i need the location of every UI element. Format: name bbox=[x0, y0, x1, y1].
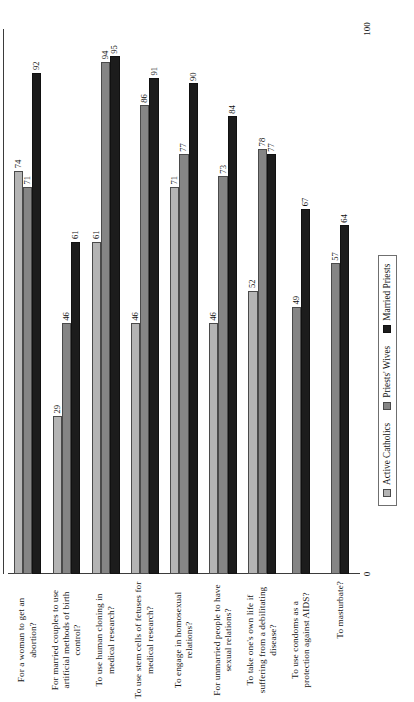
grouped-bar-chart: For a woman to get an abortion?For marri… bbox=[0, 0, 414, 702]
bar-group: 294661 bbox=[47, 29, 86, 574]
bar[interactable] bbox=[71, 242, 80, 574]
category-label: For a woman to get an abortion? bbox=[16, 581, 39, 699]
bar[interactable] bbox=[14, 171, 23, 574]
bar[interactable] bbox=[292, 307, 301, 574]
axis-tick-min: 0 bbox=[362, 572, 372, 577]
bar-row: 71 bbox=[170, 29, 179, 574]
bar[interactable] bbox=[179, 154, 188, 574]
legend-label: Active Catholics bbox=[382, 423, 392, 485]
bar-row: 95 bbox=[110, 29, 119, 574]
category-label-cell: To masturbate? bbox=[321, 574, 360, 702]
bar-value-label: 57 bbox=[331, 252, 340, 261]
bar-group: 4967 bbox=[282, 29, 321, 574]
chart-legend: Active CatholicsPriests' WivesMarried Pr… bbox=[378, 255, 397, 506]
bar-value-label: 77 bbox=[179, 143, 188, 152]
legend-item[interactable]: Married Priests bbox=[382, 264, 392, 333]
bar-row: 90 bbox=[189, 29, 198, 574]
bar-group: 717790 bbox=[164, 29, 203, 574]
bar-value-label: 90 bbox=[189, 72, 198, 81]
category-label-cell: For a woman to get an abortion? bbox=[8, 574, 47, 702]
bar-value-label: 71 bbox=[170, 176, 179, 185]
bar[interactable] bbox=[218, 176, 227, 574]
bar[interactable] bbox=[23, 187, 32, 574]
bar-row: 77 bbox=[179, 29, 188, 574]
bar-group: 5764 bbox=[321, 29, 360, 574]
bar-row: 71 bbox=[23, 29, 32, 574]
bar-group: 467384 bbox=[203, 29, 242, 574]
bar[interactable] bbox=[140, 105, 149, 574]
bar-value-label: 46 bbox=[131, 312, 140, 321]
legend-item[interactable]: Priests' Wives bbox=[382, 346, 392, 410]
bar-value-label: 77 bbox=[267, 143, 276, 152]
bar[interactable] bbox=[258, 149, 267, 574]
bar[interactable] bbox=[228, 116, 237, 574]
category-label: For married couples to use artificial me… bbox=[50, 581, 84, 699]
bar-value-label: 71 bbox=[23, 176, 32, 185]
bar[interactable] bbox=[62, 323, 71, 574]
category-label-cell: To take one's own life if suffering from… bbox=[243, 574, 282, 702]
bar[interactable] bbox=[110, 56, 119, 574]
scale-top-rule bbox=[3, 29, 4, 574]
bar-value-label: 92 bbox=[32, 62, 41, 71]
bar-row: 57 bbox=[331, 29, 340, 574]
category-label-cell: To use stem cells of fetuses for medical… bbox=[125, 574, 164, 702]
bar-value-label: 46 bbox=[62, 312, 71, 321]
bar-value-label: 67 bbox=[301, 198, 310, 207]
legend-item[interactable]: Active Catholics bbox=[382, 423, 392, 497]
bar-row: 84 bbox=[228, 29, 237, 574]
category-label: To use condoms as a protection against A… bbox=[290, 581, 313, 699]
bar[interactable] bbox=[149, 78, 158, 574]
bar-row: 86 bbox=[140, 29, 149, 574]
bar[interactable] bbox=[209, 323, 218, 574]
bar-value-label: 74 bbox=[14, 160, 23, 169]
bar-row: 91 bbox=[149, 29, 158, 574]
category-label-cell: For married couples to use artificial me… bbox=[47, 574, 86, 702]
bar-group: 747192 bbox=[8, 29, 47, 574]
legend-swatch-icon bbox=[383, 325, 391, 333]
legend-swatch-icon bbox=[383, 402, 391, 410]
bar[interactable] bbox=[53, 416, 62, 574]
category-label: To use human cloning in medical research… bbox=[94, 581, 117, 699]
bar[interactable] bbox=[331, 263, 340, 574]
bar-row: 61 bbox=[71, 29, 80, 574]
bar-value-label: 84 bbox=[228, 105, 237, 114]
bar[interactable] bbox=[248, 291, 257, 574]
bar[interactable] bbox=[92, 242, 101, 574]
bar-row: 77 bbox=[267, 29, 276, 574]
bar-value-label: 29 bbox=[53, 405, 62, 414]
bar[interactable] bbox=[189, 84, 198, 575]
bar[interactable] bbox=[101, 62, 110, 574]
category-label-cell: For unmarried people to have sexual rela… bbox=[204, 574, 243, 702]
bar-group: 527877 bbox=[243, 29, 282, 574]
bar-value-label: 73 bbox=[219, 165, 228, 174]
bar-value-label: 46 bbox=[209, 312, 218, 321]
bar[interactable] bbox=[32, 73, 41, 574]
bar-value-label: 49 bbox=[292, 296, 301, 305]
plot-area: 7471922946616194954686917177904673845278… bbox=[8, 29, 360, 574]
category-label-cell: To use human cloning in medical research… bbox=[86, 574, 125, 702]
bar-row: 46 bbox=[131, 29, 140, 574]
bar-value-label: 64 bbox=[340, 214, 349, 223]
bar-value-label: 95 bbox=[110, 45, 119, 54]
bar-row: 78 bbox=[258, 29, 267, 574]
bar-row: 46 bbox=[209, 29, 218, 574]
legend-label: Priests' Wives bbox=[382, 346, 392, 398]
bar-value-label: 91 bbox=[150, 67, 159, 76]
bar[interactable] bbox=[267, 154, 276, 574]
category-axis-labels: For a woman to get an abortion?For marri… bbox=[8, 574, 360, 702]
bar[interactable] bbox=[170, 187, 179, 574]
bar[interactable] bbox=[131, 323, 140, 574]
chart-page: For a woman to get an abortion?For marri… bbox=[0, 0, 414, 702]
category-label: To use stem cells of fetuses for medical… bbox=[133, 581, 156, 699]
bar-row: 67 bbox=[301, 29, 310, 574]
bar-row: 52 bbox=[248, 29, 257, 574]
category-label: To engage in homosexual relations? bbox=[173, 581, 196, 699]
bar-row: 92 bbox=[32, 29, 41, 574]
bar-row: 64 bbox=[340, 29, 349, 574]
bar[interactable] bbox=[340, 225, 349, 574]
bar-row: 61 bbox=[92, 29, 101, 574]
category-label-cell: To use condoms as a protection against A… bbox=[282, 574, 321, 702]
bar-row: 49 bbox=[292, 29, 301, 574]
bar-value-label: 52 bbox=[248, 280, 257, 289]
bar[interactable] bbox=[301, 209, 310, 574]
